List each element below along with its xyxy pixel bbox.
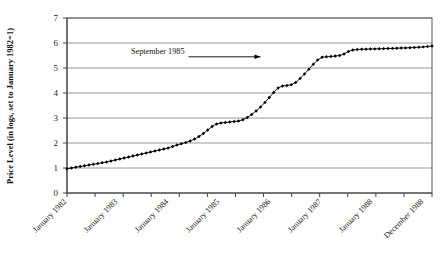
annotation-label: September 1985: [131, 47, 184, 56]
y-axis-title: Price Level (in logs, set to January 198…: [5, 28, 15, 184]
y-tick-label-1: 1: [54, 163, 59, 173]
price-level-line-chart: 01234567 January 1982January 1983January…: [0, 0, 445, 257]
y-tick-label-2: 2: [54, 138, 59, 148]
y-tick-label-3: 3: [54, 113, 59, 123]
chart-container: 01234567 January 1982January 1983January…: [0, 0, 445, 257]
y-tick-label-5: 5: [54, 63, 59, 73]
y-tick-label-0: 0: [54, 188, 59, 198]
y-tick-label-4: 4: [54, 88, 59, 98]
y-tick-label-6: 6: [54, 38, 59, 48]
y-tick-label-7: 7: [54, 13, 59, 23]
